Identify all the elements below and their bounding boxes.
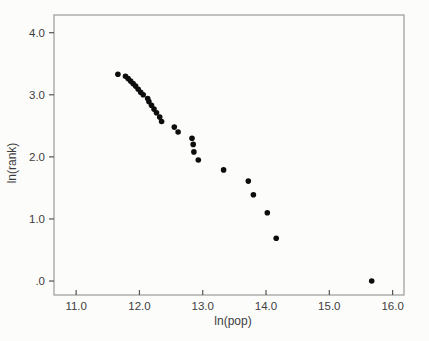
- plot-canvas: 11.012.013.014.015.016.0 .01.02.03.04.0 …: [0, 0, 429, 341]
- y-tick-label: .0: [35, 275, 45, 287]
- data-point: [246, 178, 252, 184]
- y-axis-tick-labels: .01.02.03.04.0: [29, 27, 45, 287]
- data-point: [115, 72, 121, 78]
- y-tick-label: 2.0: [29, 151, 45, 163]
- data-point: [175, 129, 181, 135]
- y-axis-label: ln(rank): [5, 143, 19, 184]
- x-tick-label: 13.0: [192, 300, 214, 312]
- data-point: [145, 96, 151, 102]
- x-axis-label: ln(pop): [214, 314, 251, 328]
- data-point: [191, 149, 197, 155]
- y-tick-label: 4.0: [29, 27, 45, 39]
- x-tick-label: 11.0: [65, 300, 87, 312]
- x-axis-ticks: [76, 290, 392, 295]
- data-point: [369, 278, 375, 284]
- data-point: [221, 167, 227, 173]
- data-point: [251, 192, 257, 198]
- x-axis-tick-labels: 11.012.013.014.015.016.0: [65, 300, 403, 312]
- data-point: [190, 142, 196, 148]
- data-point: [273, 235, 279, 241]
- x-tick-label: 14.0: [255, 300, 277, 312]
- chart-page: 11.012.013.014.015.016.0 .01.02.03.04.0 …: [0, 0, 429, 341]
- plot-frame: [54, 15, 404, 295]
- data-point: [123, 73, 129, 79]
- data-point: [265, 210, 271, 216]
- y-axis-ticks: [49, 33, 54, 281]
- x-tick-label: 12.0: [128, 300, 150, 312]
- data-point: [189, 135, 195, 141]
- data-point: [172, 124, 178, 130]
- scatter-plot: 11.012.013.014.015.016.0 .01.02.03.04.0 …: [0, 0, 429, 341]
- x-tick-label: 15.0: [318, 300, 340, 312]
- x-tick-label: 16.0: [381, 300, 403, 312]
- y-tick-label: 1.0: [29, 213, 45, 225]
- y-tick-label: 3.0: [29, 89, 45, 101]
- data-points: [115, 72, 374, 284]
- data-point: [196, 157, 202, 163]
